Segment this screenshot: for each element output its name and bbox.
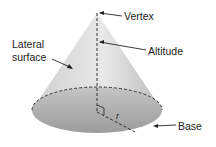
lateral-label-1: Lateral bbox=[12, 38, 44, 50]
radius-label: r bbox=[116, 110, 119, 122]
lateral-label-2: surface bbox=[12, 51, 46, 63]
vertex-label: Vertex bbox=[124, 10, 154, 22]
altitude-label: Altitude bbox=[148, 45, 183, 57]
base-label: Base bbox=[178, 120, 202, 132]
